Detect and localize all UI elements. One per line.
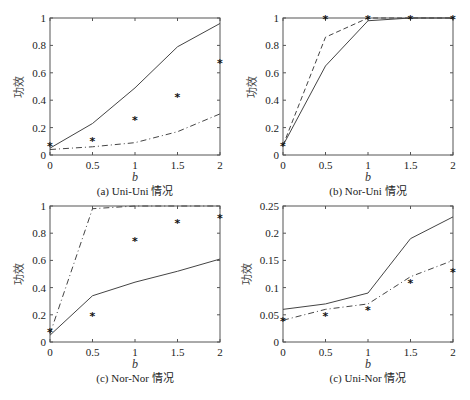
x-tick-label: 2: [217, 159, 223, 171]
data-point-star: *: [323, 13, 329, 26]
y-tick-label: 0.8: [265, 39, 279, 51]
data-point-star: *: [175, 217, 181, 230]
y-tick-label: 0.6: [32, 254, 46, 266]
y-tick-label: 0.2: [265, 122, 279, 134]
subplot-caption: (b) Nor-Uni 情况: [329, 185, 406, 198]
x-axis-label: b: [132, 170, 138, 184]
data-point-star: *: [132, 114, 138, 127]
data-point-star: *: [90, 135, 96, 148]
series-line-dashed: [283, 18, 453, 145]
y-tick-label: 1: [274, 12, 280, 24]
x-tick-label: 0.5: [86, 159, 100, 171]
data-point-star: *: [450, 266, 456, 279]
data-point-star: *: [47, 326, 53, 339]
x-tick-label: 0: [280, 159, 286, 171]
data-point-star: *: [217, 212, 223, 225]
x-tick-label: 0: [280, 346, 286, 358]
x-tick-label: 2: [217, 346, 223, 358]
y-tick-label: 1: [41, 12, 47, 24]
y-tick-label: 0.15: [260, 254, 280, 266]
data-point-star: *: [365, 13, 371, 26]
y-tick-label: 0: [41, 336, 47, 348]
x-tick-label: 0.5: [319, 159, 333, 171]
x-tick-label: 0: [47, 159, 53, 171]
subplot-1: 00.511.5200.20.40.60.81b功效(b) Nor-Uni 情况…: [245, 12, 456, 198]
data-point-star: *: [280, 140, 286, 153]
data-point-star: *: [47, 140, 53, 153]
x-axis-label: b: [365, 170, 371, 184]
y-tick-label: 0.4: [32, 282, 46, 294]
y-tick-label: 0.4: [265, 94, 279, 106]
data-point-star: *: [408, 13, 414, 26]
x-tick-label: 2: [450, 159, 456, 171]
axes-frame: [50, 18, 220, 155]
y-tick-label: 0.8: [32, 227, 46, 239]
data-point-star: *: [323, 310, 329, 323]
x-tick-label: 1.5: [404, 159, 418, 171]
axes-frame: [50, 206, 220, 342]
y-axis-label: 功效: [12, 76, 26, 98]
y-tick-label: 0.2: [32, 122, 46, 134]
y-tick-label: 0.4: [32, 94, 46, 106]
y-tick-label: 0.8: [32, 39, 46, 51]
y-tick-label: 0.25: [260, 200, 280, 212]
data-point-star: *: [175, 91, 181, 104]
data-point-star: *: [408, 277, 414, 290]
axes-frame: [283, 18, 453, 155]
data-point-star: *: [280, 315, 286, 328]
subplot-caption: (a) Uni-Uni 情况: [97, 185, 173, 198]
y-tick-label: 0: [274, 149, 280, 161]
x-tick-label: 0.5: [86, 346, 100, 358]
y-axis-label: 功效: [12, 263, 26, 285]
subplot-2: 00.511.5200.20.40.60.81b功效(c) Nor-Nor 情况…: [12, 200, 223, 385]
x-tick-label: 0.5: [319, 346, 333, 358]
x-tick-label: 2: [450, 346, 456, 358]
subplot-caption: (c) Nor-Nor 情况: [96, 372, 173, 385]
y-tick-label: 0.2: [265, 227, 279, 239]
x-tick-label: 1.5: [171, 159, 185, 171]
x-axis-label: b: [132, 357, 138, 371]
y-tick-label: 0: [274, 336, 280, 348]
y-tick-label: 0.2: [32, 309, 46, 321]
series-line-solid: [50, 259, 220, 335]
series-line-solid: [50, 23, 220, 148]
series-line-dash-dot: [50, 206, 220, 334]
data-point-star: *: [90, 310, 96, 323]
y-tick-label: 0.1: [265, 282, 279, 294]
x-tick-label: 1.5: [404, 346, 418, 358]
x-tick-label: 0: [47, 346, 53, 358]
data-point-star: *: [450, 13, 456, 26]
y-axis-label: 功效: [240, 263, 254, 285]
axes-frame: [283, 206, 453, 342]
y-axis-label: 功效: [245, 76, 259, 98]
data-point-star: *: [365, 304, 371, 317]
figure: 00.511.5200.20.40.60.81b功效(a) Uni-Uni 情况…: [0, 0, 470, 400]
y-tick-label: 0.05: [260, 309, 280, 321]
subplot-caption: (c) Uni-Nor 情况: [330, 372, 407, 385]
y-tick-label: 1: [41, 200, 47, 212]
series-line-solid: [283, 217, 453, 309]
x-axis-label: b: [365, 357, 371, 371]
subplot-3: 00.511.5200.050.10.150.20.25b功效(c) Uni-N…: [240, 200, 456, 385]
y-tick-label: 0.6: [265, 67, 279, 79]
subplot-0: 00.511.5200.20.40.60.81b功效(a) Uni-Uni 情况…: [12, 12, 223, 198]
x-tick-label: 1.5: [171, 346, 185, 358]
y-tick-label: 0: [41, 149, 47, 161]
y-tick-label: 0.6: [32, 67, 46, 79]
data-point-star: *: [217, 57, 223, 70]
data-point-star: *: [132, 235, 138, 248]
